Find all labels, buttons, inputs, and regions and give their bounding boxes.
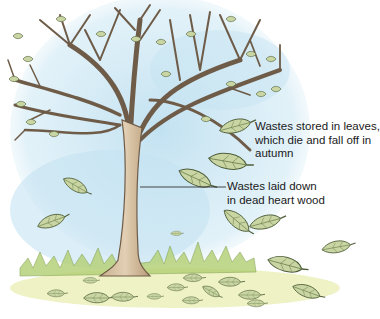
leaves-label-line-2: which die and fall off in bbox=[255, 134, 380, 148]
heartwood-label-line-1: Wastes laid down bbox=[227, 180, 325, 194]
heartwood-waste-label: Wastes laid down in dead heart wood bbox=[227, 180, 325, 207]
leaves-waste-label: Wastes stored in leaves, which die and f… bbox=[255, 120, 380, 161]
leaves-label-line-3: autumn bbox=[255, 147, 380, 161]
leaves-label-line-1: Wastes stored in leaves, bbox=[255, 120, 380, 134]
heartwood-label-line-2: in dead heart wood bbox=[227, 194, 325, 208]
